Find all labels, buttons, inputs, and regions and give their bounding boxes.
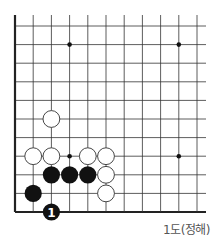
white-stone: [98, 148, 115, 165]
black-stone: [79, 166, 96, 183]
move-number-label: 1: [47, 206, 55, 220]
diagram-caption: 1도(정해): [150, 220, 210, 237]
black-stone: [61, 166, 78, 183]
star-point: [67, 154, 72, 159]
white-stone: [25, 148, 42, 165]
star-point: [177, 154, 182, 159]
white-stone: [98, 166, 115, 183]
star-point: [67, 42, 72, 47]
black-stone: [25, 185, 42, 202]
white-stone: [79, 148, 96, 165]
go-board: 1: [0, 0, 219, 242]
star-point: [177, 42, 182, 47]
white-stone: [43, 148, 60, 165]
white-stone: [43, 111, 60, 128]
white-stone: [98, 185, 115, 202]
black-stone: [43, 166, 60, 183]
